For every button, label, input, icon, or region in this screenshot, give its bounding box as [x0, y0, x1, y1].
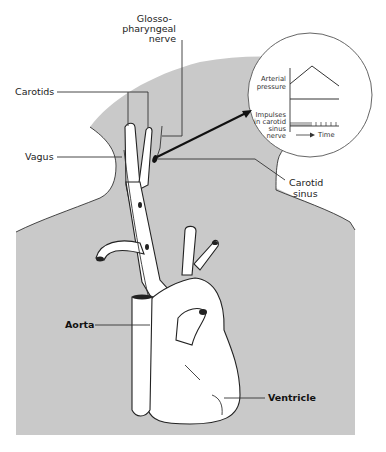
pulmonary-opening: [199, 309, 207, 315]
inset-time-label: Time: [317, 131, 335, 139]
baroreceptor-diagram: Time Arterial pressure Impulses in carot…: [0, 0, 386, 452]
inset-pressure-label-1: Arterial: [261, 75, 286, 83]
label-ventricle: Ventricle: [268, 392, 316, 403]
label-aorta: Aorta: [65, 319, 95, 330]
label-carotid-sinus-1: Carotid: [289, 177, 323, 188]
descending-aorta: [132, 297, 152, 416]
label-vagus: Vagus: [25, 151, 54, 162]
ganglion-1: [138, 202, 142, 208]
inset-impulses-label-4: nerve: [267, 132, 287, 140]
label-glossopharyngeal-3: nerve: [149, 33, 176, 44]
subclavian-opening: [96, 257, 104, 262]
vessel-branch-opening: [212, 241, 218, 245]
label-carotids: Carotids: [15, 86, 54, 97]
ganglion-2: [145, 244, 149, 250]
aorta-opening: [132, 295, 152, 300]
label-carotid-sinus-2: sinus: [293, 188, 318, 199]
inset-pressure-label-2: pressure: [257, 83, 286, 91]
